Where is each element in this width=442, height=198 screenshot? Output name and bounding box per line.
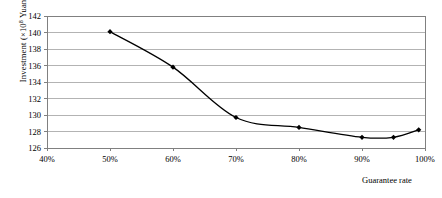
data-point-marker [296,125,301,130]
chart-figure: Investment (×108 Yuan) 12612813013213413… [0,0,442,198]
data-series-line [110,32,419,139]
data-point-marker [391,135,396,140]
x-axis-title: Guarantee rate [362,175,412,185]
chart-plot-area [0,0,442,198]
data-point-marker [359,135,364,140]
data-point-marker [107,29,112,34]
data-point-marker [233,115,238,120]
